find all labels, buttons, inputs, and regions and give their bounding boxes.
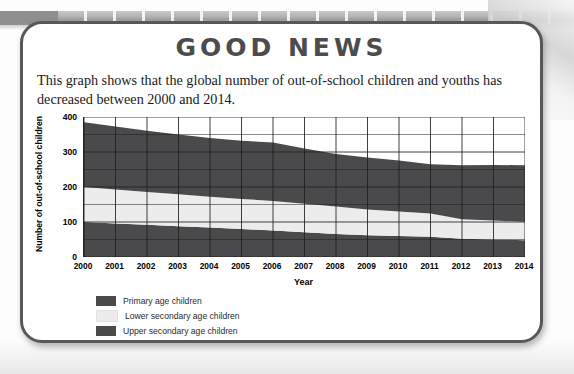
x-tick-label: 2007 [294,261,313,271]
stacked-area-chart [84,117,525,257]
x-tick-label: 2013 [483,261,502,271]
x-tick-label: 2002 [137,261,156,271]
x-tick-label: 2010 [389,261,408,271]
chart-legend: Primary age childrenLower secondary age … [96,295,240,340]
photo-bottom-sheen [0,340,574,374]
y-tick-label: 200 [47,182,77,192]
x-tick-label: 2011 [420,261,438,271]
legend-item: Lower secondary age children [96,310,240,321]
x-tick-label: 2012 [452,261,471,271]
x-axis-ticks: 2000200120022003200420052006200720082009… [83,261,524,275]
y-tick-label: 100 [47,217,77,227]
legend-item: Upper secondary age children [96,325,240,336]
legend-swatch [96,310,118,322]
x-axis-title: Year [83,277,524,287]
y-axis-title-wrap: Number of out-of-school children [23,117,39,261]
y-tick-label: 400 [47,112,77,122]
x-tick-label: 2001 [105,261,124,271]
y-tick-label: 300 [47,147,77,157]
y-tick-label: 0 [47,252,77,262]
x-tick-label: 2003 [168,261,187,271]
legend-item: Primary age children [96,295,240,306]
intro-paragraph: This graph shows that the global number … [37,71,526,109]
page-title: GOOD NEWS [23,33,540,62]
legend-label: Lower secondary age children [125,311,240,321]
x-tick-label: 2006 [263,261,282,271]
legend-swatch [96,296,116,306]
x-tick-label: 2008 [326,261,345,271]
info-card: GOOD NEWS This graph shows that the glob… [20,21,543,343]
photo-page: GOOD NEWS This graph shows that the glob… [0,0,574,374]
y-axis-ticks: 0100200300400 [45,117,77,261]
x-tick-label: 2000 [74,261,93,271]
legend-label: Upper secondary age children [123,326,238,336]
x-tick-label: 2005 [231,261,250,271]
plot-area [83,117,525,257]
x-tick-label: 2014 [515,261,534,271]
chart-figure: Number of out-of-school children 0100200… [23,117,540,307]
legend-swatch [96,326,116,336]
legend-label: Primary age children [123,296,202,306]
x-tick-label: 2009 [357,261,376,271]
y-axis-title: Number of out-of-school children [34,111,44,257]
x-tick-label: 2004 [200,261,219,271]
